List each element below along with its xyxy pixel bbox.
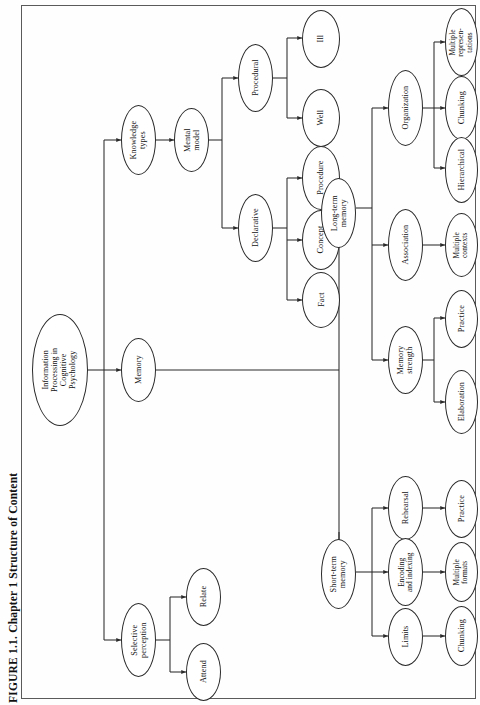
node-multiple-representations-label: Multiple represen- tations — [449, 28, 474, 56]
node-rehearsal-label: Rehearsal — [401, 491, 410, 524]
node-root-label: Information Processing in Cognitive Psyc… — [42, 348, 78, 392]
node-hierarchical[interactable]: Hierarchical — [445, 137, 478, 203]
node-memory-label: Memory — [134, 356, 143, 385]
node-long-term-memory-label: Long-term memory — [329, 195, 347, 231]
node-procedural-label: Procedural — [251, 60, 260, 96]
node-root[interactable]: Information Processing in Cognitive Psyc… — [32, 314, 88, 426]
node-selective-perception-label: Selective perception — [129, 622, 147, 658]
node-long-term-memory[interactable]: Long-term memory — [321, 178, 356, 248]
node-memory[interactable]: Memory — [121, 338, 156, 402]
node-rehearsal[interactable]: Rehearsal — [388, 476, 423, 540]
node-ill-label: Ill — [316, 35, 325, 43]
node-fact-label: Fact — [316, 293, 325, 308]
node-attend[interactable]: Attend — [186, 643, 221, 701]
node-practice-rehearsal-label: Practice — [457, 495, 466, 522]
node-chunking-organization-label: Chunking — [457, 91, 466, 124]
node-chunking-limits[interactable]: Chunking — [445, 606, 478, 666]
node-association-label: Association — [401, 225, 410, 265]
node-limits[interactable]: Limits — [388, 608, 423, 666]
node-multiple-contexts-label: Multiple contexts — [453, 232, 470, 258]
node-practice-rehearsal[interactable]: Practice — [445, 480, 478, 538]
node-association[interactable]: Association — [388, 209, 423, 281]
node-knowledge-types[interactable]: Knowledge types — [121, 105, 156, 175]
node-fact[interactable]: Fact — [302, 272, 340, 328]
figure-page: FIGURE 1.1. Chapter 1 Structure of Conte… — [0, 0, 480, 705]
node-procedural[interactable]: Procedural — [238, 44, 273, 112]
node-well[interactable]: Well — [302, 89, 340, 147]
node-memory-strength-label: Memory strength — [396, 346, 414, 375]
node-hierarchical-label: Hierarchical — [457, 149, 466, 191]
node-elaboration-label: Elaboration — [457, 382, 466, 421]
node-chunking-limits-label: Chunking — [457, 619, 466, 652]
node-short-term-memory-label: Short-term memory — [329, 556, 347, 592]
node-practice-memory-strength-label: Practice — [457, 305, 466, 332]
node-multiple-contexts[interactable]: Multiple contexts — [445, 213, 478, 277]
node-encoding-and-indexing-label: Encoding and indexing — [397, 552, 414, 592]
node-ill[interactable]: Ill — [302, 10, 340, 68]
node-organization-label: Organization — [401, 86, 410, 130]
node-multiple-representations[interactable]: Multiple represen- tations — [445, 8, 478, 76]
node-organization[interactable]: Organization — [388, 70, 423, 146]
node-knowledge-types-label: Knowledge types — [129, 121, 147, 160]
node-memory-strength[interactable]: Memory strength — [388, 326, 423, 394]
node-limits-label: Limits — [401, 626, 410, 648]
node-encoding-and-indexing[interactable]: Encoding and indexing — [388, 538, 423, 606]
node-mental-model[interactable]: Mental model — [174, 108, 209, 172]
node-practice-memory-strength[interactable]: Practice — [445, 290, 478, 348]
node-relate-label: Relate — [199, 586, 208, 608]
node-mental-model-label: Mental model — [182, 128, 200, 152]
node-elaboration[interactable]: Elaboration — [445, 370, 478, 434]
node-multiple-formats-label: Multiple formats — [453, 559, 470, 585]
node-chunking-organization[interactable]: Chunking — [445, 76, 478, 140]
node-short-term-memory[interactable]: Short-term memory — [321, 539, 356, 609]
node-relate[interactable]: Relate — [186, 568, 221, 626]
node-multiple-formats[interactable]: Multiple formats — [445, 542, 478, 602]
node-selective-perception[interactable]: Selective perception — [121, 603, 156, 677]
node-well-label: Well — [316, 110, 325, 126]
node-declarative[interactable]: Declarative — [238, 194, 273, 262]
node-declarative-label: Declarative — [251, 209, 260, 248]
node-attend-label: Attend — [199, 661, 208, 684]
